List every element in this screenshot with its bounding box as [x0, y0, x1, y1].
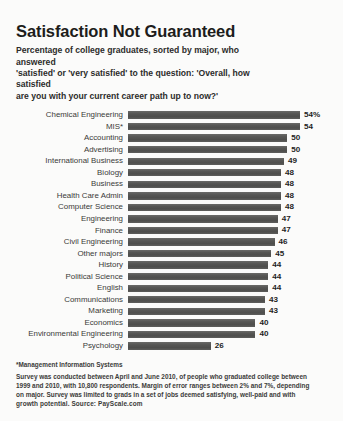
- bar-track: 45: [128, 248, 341, 260]
- bar-row: Communications43: [16, 294, 341, 306]
- bar-value-label: 48: [285, 180, 294, 188]
- bar-track: 47: [128, 213, 341, 225]
- bar-track: 47: [128, 225, 341, 237]
- bar-row: English44: [16, 282, 341, 294]
- bar-value-label: 26: [215, 342, 224, 350]
- bar-category-label: Marketing: [16, 307, 128, 315]
- bar-value-label: 48: [285, 203, 294, 211]
- survey-line: 1999 and 2010, with 10,800 respondents. …: [16, 381, 326, 390]
- bar-track: 54: [128, 121, 341, 133]
- bar-row: Advertising50: [16, 144, 341, 156]
- bar-value-label: 44: [272, 273, 281, 281]
- bar-track: 48: [128, 167, 341, 179]
- bar-row: Political Science44: [16, 271, 341, 283]
- bar-category-label: Psychology: [16, 342, 128, 350]
- bar-row: Environmental Engineering40: [16, 329, 341, 341]
- bar-track: 48: [128, 202, 341, 214]
- bar-category-label: Environmental Engineering: [16, 330, 128, 338]
- bar-value-label: 47: [282, 226, 291, 234]
- bar-category-label: Political Science: [16, 273, 128, 281]
- bar-row: Biology48: [16, 167, 341, 179]
- bar: [128, 342, 211, 349]
- subtitle-line: are you with your current career path up…: [16, 91, 268, 102]
- bar-value-label: 47: [282, 215, 291, 223]
- bar: [128, 111, 300, 118]
- bar-category-label: Civil Engineering: [16, 238, 128, 246]
- bar-value-label: 46: [279, 238, 288, 246]
- bar-row: International Business49: [16, 155, 341, 167]
- bar: [128, 238, 275, 245]
- bar-category-label: English: [16, 284, 128, 292]
- bar-track: 40: [128, 329, 341, 341]
- chart-page: Satisfaction Not Guaranteed Percentage o…: [0, 0, 343, 421]
- bar-track: 43: [128, 306, 341, 318]
- bar-row: Business48: [16, 179, 341, 191]
- bar-track: 50: [128, 132, 341, 144]
- bar-value-label: 44: [272, 284, 281, 292]
- chart-title: Satisfaction Not Guaranteed: [16, 22, 329, 40]
- bar: [128, 308, 265, 315]
- footnote-mis: *Management Information Systems: [16, 361, 326, 369]
- bar: [128, 273, 268, 280]
- bar-value-label: 44: [272, 261, 281, 269]
- bar-track: 54%: [128, 109, 341, 121]
- bar-row: Marketing43: [16, 306, 341, 318]
- subtitle-line: 'satisfied' or 'very satisfied' to the q…: [16, 68, 268, 91]
- bar-value-label: 54: [304, 123, 313, 131]
- bar-track: 46: [128, 236, 341, 248]
- source-line: growth potential. Source: PayScale.com: [16, 399, 326, 408]
- bar-row: Engineering47: [16, 213, 341, 225]
- bar-track: 48: [128, 179, 341, 191]
- bar: [128, 296, 265, 303]
- bar-category-label: Biology: [16, 169, 128, 177]
- bar-track: 44: [128, 259, 341, 271]
- survey-line: Survey was conducted between April and J…: [16, 372, 326, 381]
- survey-note: Survey was conducted between April and J…: [16, 372, 326, 409]
- bar-row: Computer Science48: [16, 202, 341, 214]
- bar-category-label: Engineering: [16, 215, 128, 223]
- bar-row: Other majors45: [16, 248, 341, 260]
- bar: [128, 146, 287, 153]
- bar-category-label: History: [16, 261, 128, 269]
- bar-value-label: 40: [259, 330, 268, 338]
- bar: [128, 285, 268, 292]
- bar-track: 50: [128, 144, 341, 156]
- bar-category-label: Accounting: [16, 134, 128, 142]
- bar: [128, 319, 255, 326]
- bar-row: Finance47: [16, 225, 341, 237]
- bar-category-label: Computer Science: [16, 203, 128, 211]
- bar-value-label: 43: [269, 307, 278, 315]
- bar-value-label: 43: [269, 296, 278, 304]
- bar-track: 43: [128, 294, 341, 306]
- bar: [128, 331, 255, 338]
- bar: [128, 123, 300, 130]
- bar: [128, 204, 281, 211]
- bar-row: Economics40: [16, 317, 341, 329]
- subtitle-line: Percentage of college graduates, sorted …: [16, 45, 268, 68]
- bar: [128, 169, 281, 176]
- chart-notes: *Management Information Systems Survey w…: [16, 361, 326, 409]
- bar-category-label: MIS*: [16, 123, 128, 131]
- survey-line: on major. Survey was limited to grads in…: [16, 390, 326, 399]
- bar-row: MIS*54: [16, 121, 341, 133]
- bar-row: Chemical Engineering54%: [16, 109, 341, 121]
- bar-category-label: Other majors: [16, 250, 128, 258]
- bar-value-label: 48: [285, 192, 294, 200]
- bar: [128, 261, 268, 268]
- bar: [128, 158, 284, 165]
- bar: [128, 134, 287, 141]
- bar-category-label: Chemical Engineering: [16, 111, 128, 119]
- bar-row: Health Care Admin48: [16, 190, 341, 202]
- bar-row: History44: [16, 259, 341, 271]
- bar-track: 40: [128, 317, 341, 329]
- bar: [128, 227, 278, 234]
- bar: [128, 250, 271, 257]
- bar-chart: Chemical Engineering54%MIS*54Accounting5…: [16, 109, 341, 351]
- chart-subtitle: Percentage of college graduates, sorted …: [16, 45, 268, 102]
- bar-value-label: 40: [259, 319, 268, 327]
- bar-category-label: Business: [16, 180, 128, 188]
- bar-row: Psychology26: [16, 340, 341, 352]
- bar-category-label: Economics: [16, 319, 128, 327]
- bar-category-label: Communications: [16, 296, 128, 304]
- bar: [128, 192, 281, 199]
